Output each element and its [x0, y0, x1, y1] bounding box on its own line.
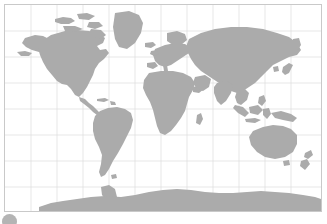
map-canvas[interactable]	[5, 5, 321, 211]
map-frame	[4, 4, 322, 212]
world-map-figure	[0, 0, 327, 224]
land-tasmania	[283, 160, 290, 166]
corner-badge[interactable]	[2, 214, 17, 224]
land-korea	[273, 66, 279, 72]
